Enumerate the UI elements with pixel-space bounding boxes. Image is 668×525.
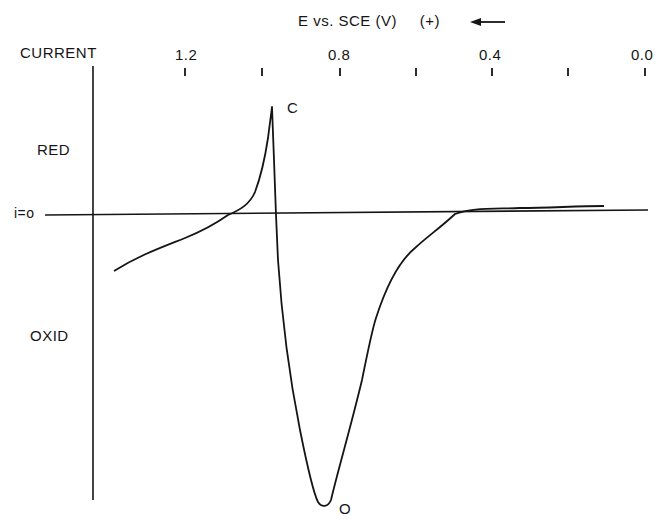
direction-arrow-icon [470,18,505,26]
tick-label-0-8: 0.8 [328,46,350,63]
voltammogram-curve [114,107,604,506]
oxid-region-label: OXID [30,327,69,344]
zero-current-line [45,210,648,215]
y-axis-label: CURRENT [20,44,97,61]
zero-current-label: i=o [14,205,35,221]
peak-o-label: O [339,500,351,517]
x-axis-ticks [185,68,645,76]
tick-label-0-4: 0.4 [479,46,501,63]
peak-c-label: C [287,99,298,116]
chart-canvas [0,0,668,525]
red-region-label: RED [37,141,70,158]
tick-label-1-2: 1.2 [175,46,197,63]
tick-label-0-0: 0.0 [631,46,653,63]
